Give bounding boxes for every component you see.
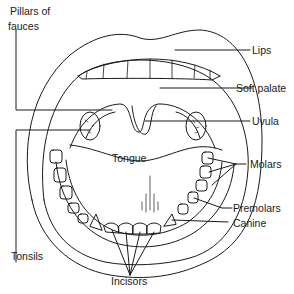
- tooth: [196, 180, 207, 191]
- diagram-drawing: [0, 0, 294, 294]
- label-soft-palate: Soft palate: [236, 82, 286, 94]
- label-premolars: Premolars: [233, 202, 281, 214]
- tooth: [50, 150, 62, 163]
- leader-canine: [172, 220, 228, 222]
- label-uvula: Uvula: [252, 115, 279, 127]
- leader-incisors: [112, 230, 154, 275]
- label-tongue: Tongue: [112, 152, 146, 164]
- label-incisors: Incisors: [111, 275, 147, 287]
- upper-teeth-bottom: [78, 76, 220, 80]
- tonsil-left: [80, 112, 100, 140]
- tongue-midline: [142, 176, 158, 212]
- tooth: [78, 214, 88, 223]
- leader-pillars: [16, 30, 112, 110]
- tooth: [178, 204, 188, 214]
- upper-teeth-row: [78, 59, 220, 76]
- leader-molars: [208, 158, 246, 185]
- tooth: [54, 168, 66, 182]
- mouth-anatomy-diagram: Pillars of fauces Lips Soft palate Uvula…: [0, 0, 294, 294]
- label-pillars-of-fauces-1: Pillars of: [10, 5, 50, 17]
- label-tonsils: Tonsils: [11, 250, 43, 262]
- label-lips: Lips: [252, 44, 271, 56]
- label-pillars-of-fauces-2: fauces: [8, 20, 39, 32]
- tooth: [188, 192, 198, 203]
- label-molars: Molars: [250, 158, 282, 170]
- leader-premolars: [194, 198, 232, 208]
- label-canine: Canine: [233, 217, 266, 229]
